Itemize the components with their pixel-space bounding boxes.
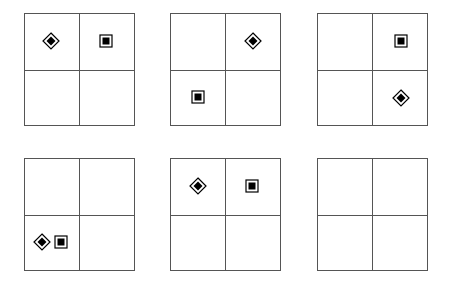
diamond-icon bbox=[42, 32, 60, 50]
grid-panel-1 bbox=[24, 13, 135, 126]
diamond-icon bbox=[189, 177, 207, 195]
grid-panel-4 bbox=[24, 158, 135, 271]
grid-panel-6 bbox=[317, 158, 428, 271]
grid-panel-5 bbox=[170, 158, 281, 271]
square-icon bbox=[243, 177, 261, 195]
diamond-icon bbox=[392, 89, 410, 107]
grid-horizontal-divider bbox=[171, 70, 280, 71]
grid-horizontal-divider bbox=[318, 70, 427, 71]
grid-panel-2 bbox=[170, 13, 281, 126]
grid-horizontal-divider bbox=[25, 215, 134, 216]
square-icon bbox=[392, 32, 410, 50]
square-icon bbox=[97, 32, 115, 50]
grid-horizontal-divider bbox=[318, 215, 427, 216]
square-icon bbox=[52, 233, 70, 251]
grid-horizontal-divider bbox=[25, 70, 134, 71]
grid-panel-3 bbox=[317, 13, 428, 126]
square-icon bbox=[189, 88, 207, 106]
grid-horizontal-divider bbox=[171, 215, 280, 216]
diamond-icon bbox=[244, 32, 262, 50]
diamond-icon bbox=[33, 233, 51, 251]
